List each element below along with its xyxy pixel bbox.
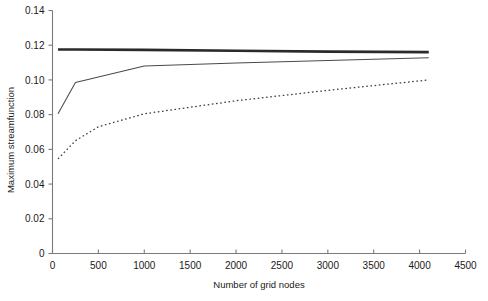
x-tick-label: 3000 bbox=[317, 260, 340, 271]
y-axis: 00.020.040.060.080.100.120.14 bbox=[25, 5, 52, 259]
x-axis-title: Number of grid nodes bbox=[213, 279, 305, 290]
y-tick-label: 0.04 bbox=[25, 179, 45, 190]
x-tick-label: 3500 bbox=[363, 260, 386, 271]
data-series-group bbox=[58, 50, 429, 159]
x-tick-label: 4000 bbox=[408, 260, 431, 271]
x-tick-label: 0 bbox=[50, 260, 56, 271]
x-axis: 050010001500200025003000350040004500 bbox=[50, 250, 477, 271]
y-tick-label: 0.14 bbox=[25, 5, 45, 16]
y-tick-label: 0.08 bbox=[25, 109, 45, 120]
x-tick-label: 2000 bbox=[225, 260, 248, 271]
x-tick-label: 1500 bbox=[179, 260, 202, 271]
line-chart: 00.020.040.060.080.100.120.14 0500100015… bbox=[0, 0, 488, 301]
series-thin-solid-curve bbox=[58, 58, 429, 114]
series-dotted-curve bbox=[58, 80, 429, 159]
x-tick-label: 500 bbox=[90, 260, 107, 271]
x-tick-label: 1000 bbox=[133, 260, 156, 271]
x-tick-label: 4500 bbox=[454, 260, 477, 271]
series-thick-solid-curve bbox=[58, 50, 429, 53]
y-tick-label: 0.06 bbox=[25, 144, 45, 155]
y-tick-label: 0 bbox=[39, 248, 45, 259]
chart-figure: 00.020.040.060.080.100.120.14 0500100015… bbox=[0, 0, 488, 301]
x-tick-label: 2500 bbox=[271, 260, 294, 271]
y-tick-label: 0.10 bbox=[25, 75, 45, 86]
y-axis-title: Maximum streamfunction bbox=[5, 87, 16, 193]
y-tick-label: 0.12 bbox=[25, 40, 45, 51]
y-tick-label: 0.02 bbox=[25, 213, 45, 224]
